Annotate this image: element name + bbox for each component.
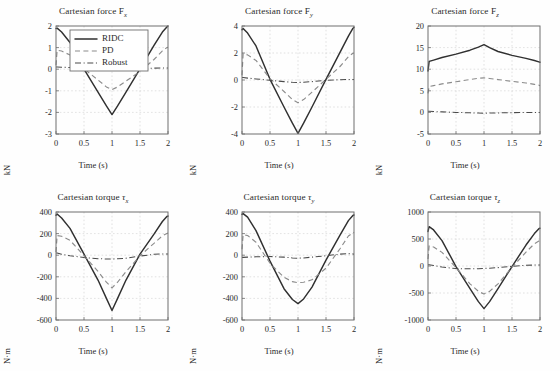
x-tick-label: 0.5 bbox=[451, 325, 461, 334]
y-tick-label: 2 bbox=[48, 22, 52, 31]
y-tick-label: 400 bbox=[39, 208, 52, 217]
x-tick-label: 0.5 bbox=[79, 139, 89, 148]
y-tick-label: 0 bbox=[234, 76, 238, 85]
x-tick-label: 2 bbox=[352, 325, 356, 334]
y-tick-label: -1000 bbox=[404, 316, 424, 325]
y-tick-label: 0 bbox=[234, 251, 238, 260]
y-tick-label: -400 bbox=[223, 294, 238, 303]
x-tick-label: 1.5 bbox=[321, 325, 331, 334]
y-tick-label: 4 bbox=[234, 22, 239, 31]
y-tick-label: 15 bbox=[416, 44, 424, 53]
y-tick-label: -600 bbox=[37, 316, 52, 325]
x-tick-label: 1 bbox=[482, 139, 486, 148]
plot-area-torque-y: 00.511.524002000-200-400-600 bbox=[186, 186, 372, 371]
y-tick-label: 5 bbox=[420, 87, 424, 96]
series-robust-force-z bbox=[428, 111, 540, 113]
y-tick-label: 400 bbox=[225, 208, 238, 217]
x-tick-label: 2 bbox=[352, 139, 356, 148]
plot-area-torque-z: 00.511.5210005000-500-1000 bbox=[372, 186, 558, 371]
y-tick-label: -4 bbox=[231, 130, 239, 139]
y-tick-label: 200 bbox=[39, 230, 52, 239]
y-tick-label: 1000 bbox=[407, 208, 424, 217]
y-tick-label: 0 bbox=[48, 65, 52, 74]
x-tick-label: 2 bbox=[538, 139, 542, 148]
x-tick-label: 0.5 bbox=[79, 325, 89, 334]
subplot-force-x: Cartesian force FxkNTime (s)00.511.52210… bbox=[0, 0, 186, 185]
y-tick-label: -2 bbox=[231, 103, 238, 112]
x-tick-label: 0 bbox=[240, 139, 244, 148]
y-tick-label: -1 bbox=[45, 87, 52, 96]
y-tick-label: -200 bbox=[223, 273, 238, 282]
x-tick-label: 0 bbox=[426, 139, 430, 148]
subplot-torque-x: Cartesian torque τxN⋅mTime (s)00.511.524… bbox=[0, 186, 186, 371]
figure-canvas: Cartesian force FxkNTime (s)00.511.52210… bbox=[0, 0, 560, 371]
plot-area-force-y: 00.511.52420-2-4 bbox=[186, 0, 372, 185]
plot-area-force-z: 00.511.5220151050-5 bbox=[372, 0, 558, 185]
x-tick-label: 1 bbox=[110, 325, 114, 334]
y-tick-label: -600 bbox=[223, 316, 238, 325]
y-tick-label: -5 bbox=[417, 130, 424, 139]
subplot-torque-z: Cartesian torque τzN⋅mTime (s)00.511.521… bbox=[372, 186, 558, 371]
y-tick-label: 2 bbox=[234, 49, 238, 58]
y-tick-label: -400 bbox=[37, 294, 52, 303]
y-tick-label: 20 bbox=[416, 22, 424, 31]
x-tick-label: 1.5 bbox=[507, 325, 517, 334]
plot-area-force-x: 00.511.52210-1-2-3RIDCPDRobust bbox=[0, 0, 186, 185]
y-tick-label: -500 bbox=[409, 289, 424, 298]
x-tick-label: 1.5 bbox=[135, 325, 145, 334]
x-tick-label: 1 bbox=[296, 325, 300, 334]
y-tick-label: 1 bbox=[48, 44, 52, 53]
y-tick-label: -3 bbox=[45, 130, 52, 139]
x-tick-label: 0 bbox=[240, 325, 244, 334]
x-tick-label: 1.5 bbox=[321, 139, 331, 148]
y-tick-label: 10 bbox=[416, 65, 424, 74]
x-tick-label: 0.5 bbox=[451, 139, 461, 148]
x-tick-label: 2 bbox=[166, 325, 170, 334]
y-tick-label: 200 bbox=[225, 230, 238, 239]
legend-label-pd: PD bbox=[102, 45, 114, 55]
x-tick-label: 1.5 bbox=[507, 139, 517, 148]
legend-label-ridc: RIDC bbox=[102, 33, 124, 43]
subplot-torque-y: Cartesian torque τyN⋅mTime (s)00.511.524… bbox=[186, 186, 372, 371]
y-tick-label: -200 bbox=[37, 273, 52, 282]
subplot-force-y: Cartesian force FykNTime (s)00.511.52420… bbox=[186, 0, 372, 185]
y-tick-label: 500 bbox=[411, 235, 424, 244]
x-tick-label: 1 bbox=[482, 325, 486, 334]
x-tick-label: 2 bbox=[166, 139, 170, 148]
x-tick-label: 0 bbox=[54, 325, 58, 334]
x-tick-label: 1 bbox=[110, 139, 114, 148]
x-tick-label: 1 bbox=[296, 139, 300, 148]
y-tick-label: 0 bbox=[48, 251, 52, 260]
y-tick-label: -2 bbox=[45, 108, 52, 117]
x-tick-label: 0.5 bbox=[265, 325, 275, 334]
x-tick-label: 1.5 bbox=[135, 139, 145, 148]
x-tick-label: 0.5 bbox=[265, 139, 275, 148]
series-pd-torque-x bbox=[56, 233, 168, 288]
x-tick-label: 0 bbox=[54, 139, 58, 148]
x-tick-label: 2 bbox=[538, 325, 542, 334]
legend-label-robust: Robust bbox=[102, 57, 128, 67]
subplot-force-z: Cartesian force FzkNTime (s)00.511.52201… bbox=[372, 0, 558, 185]
plot-area-torque-x: 00.511.524002000-200-400-600 bbox=[0, 186, 186, 371]
y-tick-label: 0 bbox=[420, 262, 424, 271]
y-tick-label: 0 bbox=[420, 108, 424, 117]
x-tick-label: 0 bbox=[426, 325, 430, 334]
